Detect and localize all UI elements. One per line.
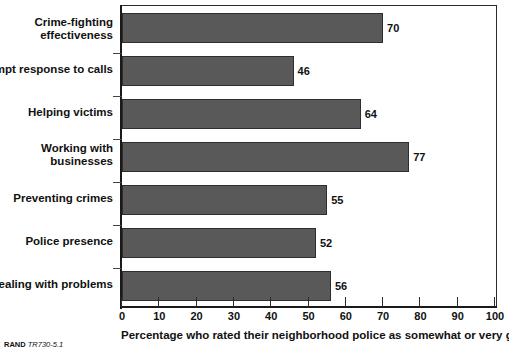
x-tick-label: 80 (414, 310, 426, 322)
bar-preventing-crimes[interactable] (122, 185, 327, 215)
x-tick-label: 30 (228, 310, 240, 322)
x-axis-tick (158, 297, 159, 307)
category-label-helping-victims: Helping victims (0, 106, 113, 119)
category-label-working-with-businesses: Working with businesses (0, 142, 113, 168)
bar-value-label: 56 (331, 280, 347, 292)
bar-police-presence[interactable] (122, 228, 316, 258)
bar-helping-victims[interactable] (122, 99, 361, 129)
x-axis-line (120, 306, 497, 308)
y-axis-tick (113, 96, 122, 97)
category-label-prompt-response-to-calls: Prompt response to calls (0, 63, 113, 76)
category-label-line: Preventing crimes (0, 192, 113, 205)
category-label-line: Helping victims (0, 106, 113, 119)
category-label-line: Working with (0, 142, 113, 155)
source-note-figure-id: TR730-5.1 (28, 340, 63, 349)
bar-row: 70 (122, 13, 498, 43)
x-tick-label: 10 (153, 310, 165, 322)
y-axis-tick (113, 225, 122, 226)
x-tick-label: 100 (486, 310, 504, 322)
x-axis-tick (196, 297, 197, 307)
bar-value-label: 46 (294, 65, 310, 77)
bar-dealing-with-problems[interactable] (122, 271, 331, 301)
bar-value-label: 55 (327, 194, 343, 206)
x-axis-tick (270, 297, 271, 307)
x-axis-tick (308, 297, 309, 307)
y-axis-tick (113, 53, 122, 54)
x-axis-tick (121, 297, 122, 307)
category-label-police-presence: Police presence (0, 235, 113, 248)
source-note: RAND TR730-5.1 (4, 340, 63, 349)
x-axis-tick (233, 297, 234, 307)
x-tick-label: 0 (119, 310, 125, 322)
x-tick-label: 90 (452, 310, 464, 322)
x-axis-tick (457, 297, 458, 307)
category-label-preventing-crimes: Preventing crimes (0, 192, 113, 205)
x-tick-label: 40 (265, 310, 277, 322)
bar-row: 56 (122, 271, 498, 301)
category-label-line: Police presence (0, 235, 113, 248)
x-axis-tick (494, 297, 495, 307)
x-tick-label: 20 (190, 310, 202, 322)
y-axis-tick (113, 182, 122, 183)
category-label-line: businesses (0, 155, 113, 168)
x-axis-title: Percentage who rated their neighborhood … (121, 329, 501, 341)
category-label-dealing-with-problems: Dealing with problems (0, 278, 113, 291)
category-label-line: Dealing with problems (0, 278, 113, 291)
x-tick-label: 50 (302, 310, 314, 322)
x-axis-tick (419, 297, 420, 307)
bar-row: 52 (122, 228, 498, 258)
bar-crime-fighting-effectiveness[interactable] (122, 13, 383, 43)
bar-row: 77 (122, 142, 498, 172)
bar-chart-figure: Crime-fighting effectiveness 70 Prompt r… (0, 0, 509, 354)
category-label-line: Crime-fighting (0, 16, 113, 29)
y-axis-tick (113, 139, 122, 140)
source-note-organization: RAND (4, 340, 26, 349)
bar-value-label: 77 (409, 151, 425, 163)
bar-prompt-response-to-calls[interactable] (122, 56, 294, 86)
x-tick-label: 70 (377, 310, 389, 322)
x-axis-tick (345, 297, 346, 307)
x-axis-tick (382, 297, 383, 307)
y-axis-tick (113, 268, 122, 269)
bar-working-with-businesses[interactable] (122, 142, 409, 172)
bar-value-label: 64 (361, 108, 377, 120)
category-label-line: effectiveness (0, 29, 113, 42)
bar-row: 64 (122, 99, 498, 129)
category-label-line: Prompt response to calls (0, 63, 113, 76)
category-label-crime-fighting-effectiveness: Crime-fighting effectiveness (0, 16, 113, 42)
bar-value-label: 70 (383, 22, 399, 34)
x-tick-label: 60 (340, 310, 352, 322)
bar-row: 55 (122, 185, 498, 215)
bar-value-label: 52 (316, 237, 332, 249)
bar-row: 46 (122, 56, 498, 86)
